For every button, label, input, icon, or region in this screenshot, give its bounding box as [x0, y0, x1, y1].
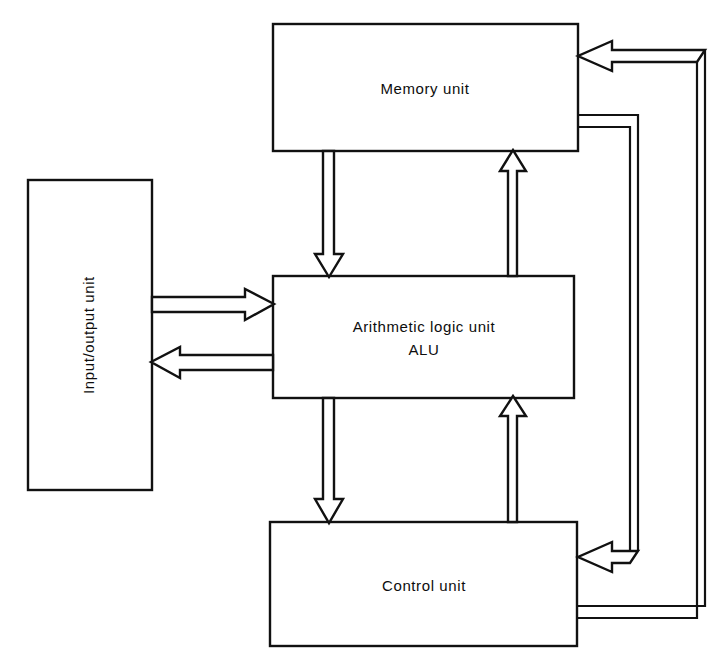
alu-to-io-arrow: [151, 347, 273, 378]
block-diagram: Memory unit Arithmetic logic unit ALU Co…: [0, 0, 722, 661]
memory-unit-label: Memory unit: [380, 80, 469, 97]
control-to-memory-bus-path: [577, 50, 705, 606]
bus-into-memory-arrowhead: [578, 41, 705, 71]
memory-to-control-bus-path: [577, 115, 638, 551]
control-unit-label: Control unit: [382, 577, 466, 594]
diagram-canvas: Memory unit Arithmetic logic unit ALU Co…: [0, 0, 722, 661]
alu-to-control-arrow: [315, 398, 343, 523]
alu-unit-label-line2: ALU: [409, 341, 440, 358]
control-to-alu-arrow: [500, 396, 526, 522]
alu-unit-box[interactable]: [273, 276, 574, 398]
alu-unit-label-line1: Arithmetic logic unit: [353, 318, 496, 335]
io-unit-label: Input/output unit: [80, 276, 97, 394]
io-to-alu-arrow: [152, 289, 274, 320]
memory-to-control-bus-path-inner: [577, 127, 630, 563]
memory-to-alu-arrow: [315, 151, 343, 277]
alu-to-memory-arrow: [500, 150, 526, 276]
